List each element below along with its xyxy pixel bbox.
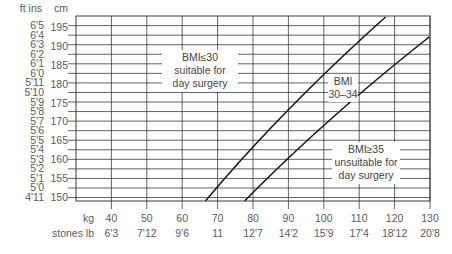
kg-label: 40 xyxy=(106,212,118,224)
cm-label: 165 xyxy=(50,134,68,146)
kg-label: 90 xyxy=(283,212,295,224)
kg-label: 100 xyxy=(315,212,333,224)
cm-label: 150 xyxy=(50,191,68,203)
annotation-low: day surgery xyxy=(173,77,229,89)
cm-label: 195 xyxy=(50,21,68,33)
stones-label: 6'3 xyxy=(105,227,119,239)
kg-label: 80 xyxy=(247,212,259,224)
stones-label: 9'6 xyxy=(175,227,189,239)
ftin-unit-label: ft ins xyxy=(20,2,42,14)
stones-label: 14'2 xyxy=(279,227,299,239)
annotation-low: suitable for xyxy=(174,64,226,76)
annotation-mid: 30–34 xyxy=(328,88,357,100)
kg-unit-label: kg xyxy=(83,212,94,224)
annotation-high: BMI≥35 xyxy=(348,143,384,155)
y-axis-labels: 6'56'46'36'26'16'05'115'105'95'85'75'65'… xyxy=(20,2,68,203)
cm-label: 170 xyxy=(50,115,68,127)
cm-label: 175 xyxy=(50,97,68,109)
stones-unit-label: stones lb xyxy=(52,227,94,239)
stones-label: 7'12 xyxy=(137,227,157,239)
x-axis-labels: 406'3507'12609'670118012'79014'210015'91… xyxy=(52,212,440,239)
kg-label: 120 xyxy=(386,212,404,224)
kg-label: 130 xyxy=(421,212,439,224)
annotation-low: BMI≤30 xyxy=(182,51,218,63)
kg-label: 70 xyxy=(212,212,224,224)
cm-label: 185 xyxy=(50,59,68,71)
kg-label: 110 xyxy=(351,212,368,224)
stones-label: 12'7 xyxy=(243,227,263,239)
annotation-high: day surgery xyxy=(339,169,395,181)
stones-label: 11 xyxy=(212,227,223,239)
kg-label: 50 xyxy=(141,212,153,224)
kg-label: 60 xyxy=(176,212,188,224)
cm-label: 180 xyxy=(50,78,68,90)
stones-label: 18'12 xyxy=(382,227,408,239)
cm-label: 155 xyxy=(50,172,68,184)
stones-label: 15'9 xyxy=(314,227,334,239)
bmi-chart: 6'56'46'36'26'16'05'115'105'95'85'75'65'… xyxy=(0,0,452,254)
stones-label: 20'8 xyxy=(420,227,440,239)
cm-label: 190 xyxy=(50,40,68,52)
cm-unit-label: cm xyxy=(54,2,68,14)
cm-label: 160 xyxy=(50,153,68,165)
ftin-label: 4'11 xyxy=(25,191,44,203)
stones-label: 17'4 xyxy=(349,227,369,239)
annotation-high: unsuitable for xyxy=(334,156,398,168)
annotation-mid: BMI xyxy=(334,75,353,87)
